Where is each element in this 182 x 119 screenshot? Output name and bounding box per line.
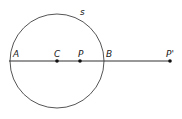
diagram-canvas: s ACPBP': [0, 0, 182, 119]
label-p: P: [78, 49, 84, 59]
label-p-prime: P': [166, 49, 174, 59]
inversion-diagram: s ACPBP': [0, 0, 182, 119]
point-c-dot: [55, 59, 59, 63]
label-a: A: [12, 49, 19, 59]
label-c: C: [54, 49, 61, 59]
point-p-dot: [78, 59, 82, 63]
point-p-prime-dot: [168, 59, 172, 63]
label-b: B: [106, 49, 112, 59]
label-s: s: [80, 7, 85, 17]
